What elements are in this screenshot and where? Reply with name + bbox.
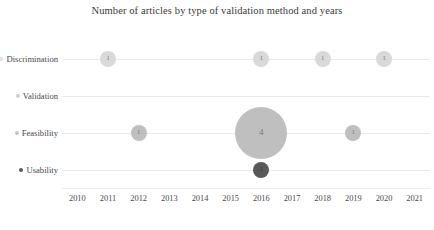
bubble-value-label: 1 [382,55,385,62]
bubble-value-label: 1 [260,166,263,173]
y-axis-label-usability: Usability [19,165,58,175]
y-axis-label-discrimination: Discrimination [0,54,58,64]
bubble-feasibility-2012[interactable]: 1 [131,125,147,141]
x-axis: 2010201120122013201420152016201720182019… [62,194,430,210]
y-axis-marker-icon [19,168,23,172]
x-axis-label-2017: 2017 [284,194,301,203]
x-axis-label-2010: 2010 [69,194,86,203]
bubble-usability-2016[interactable]: 1 [253,162,269,178]
gridline-discrimination [62,59,430,60]
y-axis-label-validation: Validation [16,91,58,101]
y-axis-label-text: Discrimination [6,54,58,64]
x-axis-label-2016: 2016 [253,194,270,203]
bubble-discrimination-2020[interactable]: 1 [376,51,392,67]
y-axis-label-text: Validation [23,91,58,101]
y-axis-label-text: Feasibility [22,128,58,138]
bubble-value-label: 1 [260,55,263,62]
y-axis-label-text: Usability [26,165,58,175]
bubble-value-label: 4 [259,128,264,137]
x-axis-label-2020: 2020 [376,194,393,203]
bubble-feasibility-2016[interactable]: 4 [235,107,287,159]
bubble-discrimination-2011[interactable]: 1 [100,51,116,67]
x-axis-label-2012: 2012 [130,194,147,203]
gridline-validation [62,96,430,97]
x-axis-label-2011: 2011 [100,194,116,203]
bubble-value-label: 1 [137,129,140,136]
plot-area: 11111411 [62,40,430,188]
bubble-value-label: 1 [106,55,109,62]
y-axis: DiscriminationValidationFeasibilityUsabi… [0,40,58,188]
y-axis-marker-icon [0,57,3,61]
bubble-discrimination-2018[interactable]: 1 [315,51,331,67]
x-axis-line [62,188,430,189]
x-axis-label-2019: 2019 [345,194,362,203]
y-axis-label-feasibility: Feasibility [15,128,58,138]
y-axis-marker-icon [16,94,20,98]
x-axis-label-2021: 2021 [406,194,423,203]
bubble-value-label: 1 [352,129,355,136]
x-axis-label-2013: 2013 [161,194,178,203]
chart-title: Number of articles by type of validation… [0,5,434,16]
bubble-value-label: 1 [321,55,324,62]
x-axis-label-2015: 2015 [222,194,239,203]
y-axis-marker-icon [15,131,19,135]
bubble-chart: Number of articles by type of validation… [0,0,434,230]
x-axis-label-2018: 2018 [314,194,331,203]
bubble-feasibility-2019[interactable]: 1 [345,125,361,141]
x-axis-label-2014: 2014 [192,194,209,203]
bubble-discrimination-2016[interactable]: 1 [253,51,269,67]
gridline-usability [62,170,430,171]
